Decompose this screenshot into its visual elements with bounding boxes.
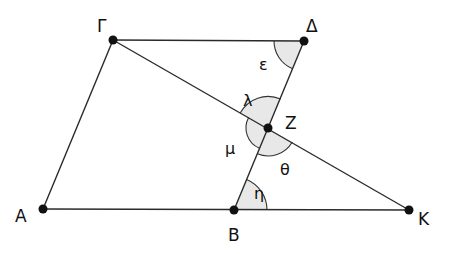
diagram-svg: Γ Δ Z A B K ε λ μ θ η bbox=[0, 0, 451, 254]
point-delta bbox=[300, 37, 309, 46]
point-gamma bbox=[109, 36, 118, 45]
angle-epsilon-arc bbox=[274, 41, 304, 69]
segment-gamma-delta bbox=[113, 40, 304, 41]
label-beta: B bbox=[228, 225, 240, 245]
geometry-diagram: Γ Δ Z A B K ε λ μ θ η bbox=[0, 0, 451, 254]
label-alpha: A bbox=[15, 206, 27, 226]
point-beta bbox=[230, 206, 239, 215]
label-angle-theta: θ bbox=[280, 160, 290, 179]
point-zeta bbox=[264, 124, 273, 133]
label-kappa: K bbox=[418, 209, 430, 229]
point-alpha bbox=[39, 205, 48, 214]
label-delta: Δ bbox=[306, 16, 318, 36]
label-angle-epsilon: ε bbox=[259, 55, 268, 74]
point-kappa bbox=[405, 206, 414, 215]
label-zeta: Z bbox=[285, 113, 297, 133]
label-angle-lambda: λ bbox=[243, 91, 252, 110]
label-angle-eta: η bbox=[254, 184, 264, 203]
label-gamma: Γ bbox=[97, 16, 107, 36]
segment-alpha-kappa bbox=[43, 209, 409, 210]
segment-gamma-alpha bbox=[43, 40, 113, 209]
label-angle-mu: μ bbox=[225, 139, 235, 158]
